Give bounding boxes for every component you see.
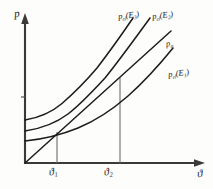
figure-container: pel(E3) pel(E2) pα pel(E1) p ϑ ϑ1 ϑ2 xyxy=(0,0,213,189)
x-tick-label-theta-1: ϑ1 xyxy=(48,167,57,178)
curve-label-p-el-e1-sub2: 1 xyxy=(184,72,187,78)
y-axis-arrowhead xyxy=(21,13,29,24)
curve-label-p-alpha: pα xyxy=(166,39,174,48)
x-tick-label-theta-1-sub: 1 xyxy=(54,171,58,178)
curve-label-p-el-e1: pel(E1) xyxy=(168,68,190,79)
curve-label-p-el-e2-sub1: el xyxy=(156,15,160,21)
x-tick-label-theta-2: ϑ2 xyxy=(103,167,112,178)
curve-p-el-e1 xyxy=(25,48,173,141)
line-p-alpha xyxy=(25,31,171,163)
curve-label-p-el-e1-sub1: el xyxy=(172,73,176,79)
curve-label-p-el-e3-sub2: 3 xyxy=(134,14,137,20)
x-axis-label: ϑ xyxy=(196,168,203,180)
curve-label-p-el-e3-sub1: el xyxy=(122,15,126,21)
plot-canvas xyxy=(0,0,213,189)
curve-label-p-el-e3: pel(E3) xyxy=(118,10,140,21)
curve-label-p-el-e2-sub2: 2 xyxy=(168,14,171,20)
x-tick-label-theta-2-sub: 2 xyxy=(109,171,113,178)
x-axis-arrowhead xyxy=(194,159,205,167)
curve-label-p-el-e2: pel(E2) xyxy=(152,10,174,21)
y-axis-label: p xyxy=(13,8,20,20)
curve-label-p-alpha-sub: α xyxy=(170,43,173,49)
